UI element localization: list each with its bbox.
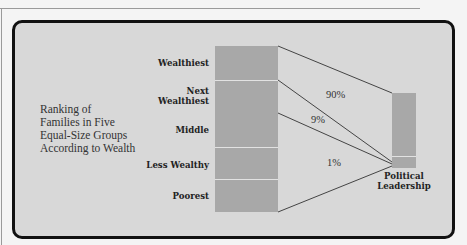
flow-line-wealthiest <box>278 46 392 93</box>
political-label-line2: Leadership <box>376 182 432 192</box>
percent-1: 1% <box>327 157 341 168</box>
percent-90: 90% <box>326 89 345 100</box>
flow-line-poorest <box>278 166 392 212</box>
percent-9: 9% <box>311 114 325 125</box>
political-leadership-label: Political Leadership <box>376 172 432 191</box>
flow-lines <box>0 0 467 245</box>
